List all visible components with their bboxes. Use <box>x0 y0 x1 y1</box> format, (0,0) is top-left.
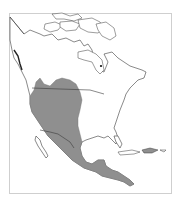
caribbean-islands <box>118 148 166 155</box>
baja-california <box>35 136 48 158</box>
location-marker <box>100 65 102 67</box>
range-map <box>0 0 179 208</box>
